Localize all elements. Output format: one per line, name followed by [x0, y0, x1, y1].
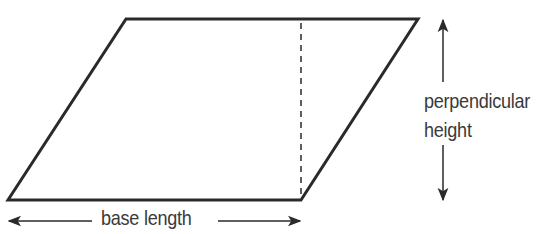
base-length-label: base length — [101, 207, 192, 228]
height-label: height — [424, 119, 472, 140]
parallelogram-shape — [8, 19, 418, 200]
perpendicular-label: perpendicular — [424, 90, 530, 111]
parallelogram-diagram — [0, 0, 552, 234]
